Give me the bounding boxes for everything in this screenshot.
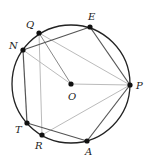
segment-RP: [42, 85, 130, 135]
point-E: [87, 24, 92, 29]
segment-QR: [39, 33, 42, 135]
label-E: E: [87, 11, 96, 22]
segment-NO: [23, 50, 71, 84]
point-Q: [36, 30, 41, 35]
label-A: A: [84, 146, 92, 157]
point-N: [20, 47, 25, 52]
segment-QP: [39, 33, 130, 85]
light-segments: [23, 33, 130, 135]
segment-OP: [71, 84, 130, 85]
segment-PA: [87, 85, 130, 141]
point-T: [24, 120, 29, 125]
label-P: P: [135, 80, 143, 91]
segment-EP: [90, 27, 130, 85]
segment-QO: [39, 33, 71, 84]
label-T: T: [15, 124, 23, 135]
label-O: O: [68, 91, 76, 102]
point-R: [39, 132, 44, 137]
segment-TN: [23, 50, 27, 123]
label-R: R: [34, 140, 43, 151]
point-P: [127, 82, 132, 87]
label-N: N: [8, 40, 19, 51]
label-Q: Q: [26, 19, 34, 30]
point-A: [84, 138, 89, 143]
geometry-diagram: OPEQNTRA: [0, 0, 151, 159]
circle-figure: OPEQNTRA: [0, 0, 151, 159]
point-O: [68, 81, 73, 86]
